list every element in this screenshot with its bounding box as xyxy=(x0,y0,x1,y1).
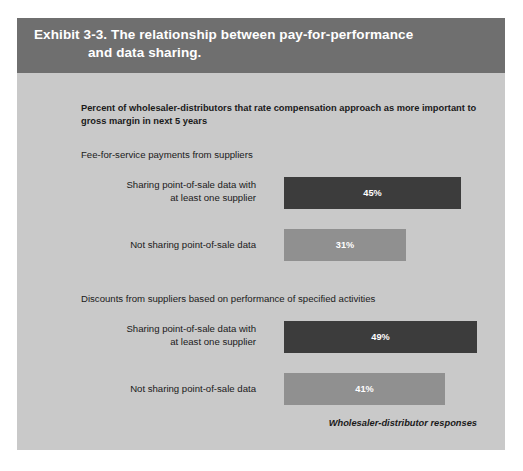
bar-row: Not sharing point-of-sale data 41% xyxy=(17,373,505,407)
bar-label: Sharing point-of-sale data with at least… xyxy=(46,323,256,348)
bar-label: Not sharing point-of-sale data xyxy=(46,383,256,396)
bar-value-label: 49% xyxy=(371,332,389,342)
bar-fill-light: 31% xyxy=(284,229,406,261)
bar-label-line-1: Sharing point-of-sale data with xyxy=(126,323,256,334)
exhibit-title-line-1: Exhibit 3-3. The relationship between pa… xyxy=(34,27,413,42)
bar-fill-dark: 45% xyxy=(284,177,461,209)
bar-track: 41% xyxy=(284,373,445,405)
bar-row: Not sharing point-of-sale data 31% xyxy=(17,229,505,263)
bar-row: Sharing point-of-sale data with at least… xyxy=(17,321,505,355)
bar-fill-light: 41% xyxy=(284,373,445,405)
bar-label-line-1: Not sharing point-of-sale data xyxy=(130,239,256,250)
bar-label-line-2: at least one supplier xyxy=(170,192,256,203)
bar-track: 31% xyxy=(284,229,406,261)
bar-label-line-2: at least one supplier xyxy=(170,336,256,347)
bar-track: 49% xyxy=(284,321,477,353)
bar-label-line-1: Not sharing point-of-sale data xyxy=(130,383,256,394)
exhibit-title: Exhibit 3-3. The relationship between pa… xyxy=(34,26,474,62)
exhibit-title-line-2: and data sharing. xyxy=(34,44,474,62)
bar-row: Sharing point-of-sale data with at least… xyxy=(17,177,505,211)
bar-track: 45% xyxy=(284,177,461,209)
chart-footnote: Wholesaler-distributor responses xyxy=(329,418,477,428)
chart-body: Percent of wholesaler-distributors that … xyxy=(17,73,505,450)
bar-label: Sharing point-of-sale data with at least… xyxy=(46,179,256,204)
bar-label-line-1: Sharing point-of-sale data with xyxy=(126,179,256,190)
bar-value-label: 41% xyxy=(355,384,373,394)
section-header-fee-for-service: Fee-for-service payments from suppliers xyxy=(81,149,253,160)
section-header-discounts: Discounts from suppliers based on perfor… xyxy=(81,293,375,304)
bar-value-label: 31% xyxy=(336,240,354,250)
exhibit-header-bar: Exhibit 3-3. The relationship between pa… xyxy=(17,18,505,73)
exhibit-card: Exhibit 3-3. The relationship between pa… xyxy=(17,18,505,450)
bar-value-label: 45% xyxy=(363,188,381,198)
bar-label: Not sharing point-of-sale data xyxy=(46,239,256,252)
chart-subtitle: Percent of wholesaler-distributors that … xyxy=(81,102,481,127)
bar-fill-dark: 49% xyxy=(284,321,477,353)
